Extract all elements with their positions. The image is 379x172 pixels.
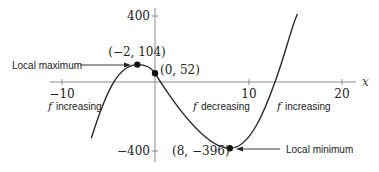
y-intercept-point-label: (0, 52) xyxy=(160,63,200,77)
region-middle-text: decreasing xyxy=(201,101,250,112)
x-tick-label-neg10: −10 xyxy=(49,87,74,101)
f-symbol: f xyxy=(47,100,54,113)
x-axis-label: x xyxy=(362,75,369,89)
local-max-annotation: Local maximum xyxy=(12,60,82,71)
x-tick-label-20: 20 xyxy=(334,87,349,101)
local-min-annotation: Local minimum xyxy=(286,144,353,155)
region-label-right: f increasing xyxy=(276,100,331,113)
f-symbol: f xyxy=(192,100,199,113)
x-tick-label-10: 10 xyxy=(241,87,256,101)
region-left-text: increasing xyxy=(56,101,102,112)
local-max-point xyxy=(134,61,140,67)
f-symbol: f xyxy=(276,100,283,113)
y-intercept-point xyxy=(152,70,158,76)
region-right-text: increasing xyxy=(285,101,331,112)
function-graph: −10 10 20 400 −400 x (−2, 104) (0, 52) (… xyxy=(0,0,379,172)
y-tick-label-400: 400 xyxy=(127,9,150,23)
region-label-middle: f decreasing xyxy=(192,100,250,113)
y-tick-label-neg400: −400 xyxy=(117,144,150,158)
local-min-point-label: (8, −396) xyxy=(172,144,230,158)
function-curve xyxy=(91,14,297,148)
region-label-left: f increasing xyxy=(47,100,102,113)
local-max-point-label: (−2, 104) xyxy=(108,45,166,59)
